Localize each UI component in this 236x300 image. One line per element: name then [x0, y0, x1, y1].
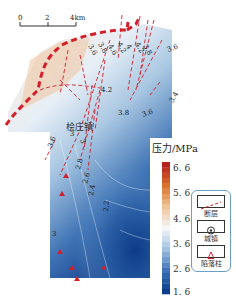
scale-tick: 0	[18, 14, 22, 22]
colorbar-segment	[162, 183, 170, 189]
map-legend: 断层 城镇 陷落柱	[191, 190, 231, 272]
colorbar-segment	[162, 220, 170, 226]
colorbar-segment	[162, 231, 170, 237]
colorbar-segment	[162, 236, 170, 242]
scale-tick: 2	[45, 14, 49, 22]
colorbar-title: 压力/MPa	[152, 140, 198, 155]
colorbar-segment	[162, 178, 170, 184]
colorbar-segment	[162, 257, 170, 263]
town-marker: 桧庄镇	[66, 121, 93, 132]
contour-label: 3	[52, 230, 56, 238]
colorbar-segment	[162, 199, 170, 205]
pressure-field	[0, 24, 172, 300]
legend-label: 陷落柱	[192, 258, 230, 268]
colorbar-segment	[162, 268, 170, 274]
fault-line-icon	[197, 195, 225, 208]
colorbar-segment	[162, 273, 170, 279]
colorbar-segment	[162, 173, 170, 179]
colorbar-segment	[162, 167, 170, 173]
scale-bar: 0 2 4km	[18, 14, 86, 26]
colorbar-segment	[162, 289, 170, 295]
colorbar-segment	[162, 225, 170, 231]
colorbar-segment	[162, 262, 170, 268]
colorbar-tick: 6. 6	[173, 163, 190, 173]
colorbar	[162, 162, 170, 294]
colorbar-segment	[162, 162, 170, 168]
collapse-column-icon	[102, 266, 106, 270]
town-icon	[197, 220, 225, 233]
colorbar-segment	[162, 283, 170, 289]
contour-label: 4.2	[101, 86, 112, 94]
colorbar-segment	[162, 188, 170, 194]
legend-label: 断层	[192, 208, 230, 218]
colorbar-segment	[162, 210, 170, 216]
contour-label: 3.8	[118, 109, 129, 117]
colorbar-segment	[162, 204, 170, 210]
colorbar-segment	[162, 194, 170, 200]
colorbar-tick: 3. 6	[173, 239, 190, 249]
contour-label: 2.2	[102, 200, 111, 212]
legend-label: 城镇	[192, 233, 230, 243]
colorbar-segment	[162, 215, 170, 221]
colorbar-segment	[162, 252, 170, 258]
colorbar-tick: 1. 6	[173, 287, 190, 297]
town-name: 桧庄镇	[66, 121, 93, 132]
colorbar-tick: 2. 6	[173, 264, 190, 274]
colorbar-tick: 5. 6	[173, 188, 190, 198]
colorbar-tick: 4. 6	[173, 214, 190, 224]
colorbar-segment	[162, 246, 170, 252]
colorbar-segment	[162, 278, 170, 284]
collapse-column-icon	[197, 245, 225, 258]
scale-tick: 4km	[70, 14, 86, 22]
colorbar-segment	[162, 241, 170, 247]
